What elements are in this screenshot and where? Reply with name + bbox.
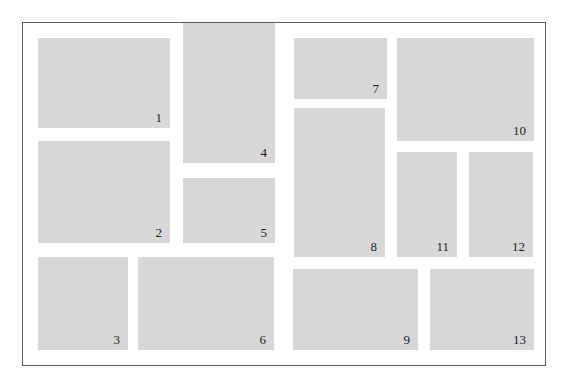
masonry-block-7: 7 [294, 38, 387, 99]
masonry-block-1: 1 [38, 38, 170, 128]
block-number-label: 10 [513, 124, 526, 137]
masonry-block-10: 10 [397, 38, 534, 141]
masonry-block-5: 5 [183, 178, 275, 243]
masonry-block-2: 2 [38, 141, 170, 243]
masonry-block-9: 9 [293, 269, 418, 350]
masonry-block-11: 11 [397, 152, 457, 257]
block-number-label: 9 [404, 333, 411, 346]
masonry-block-13: 13 [430, 269, 534, 350]
block-number-label: 1 [156, 111, 163, 124]
block-number-label: 4 [261, 146, 268, 159]
masonry-block-6: 6 [138, 257, 274, 350]
block-number-label: 5 [261, 226, 268, 239]
masonry-block-3: 3 [38, 257, 128, 350]
masonry-block-12: 12 [469, 152, 533, 257]
block-number-label: 3 [114, 333, 121, 346]
block-number-label: 11 [436, 240, 449, 253]
block-number-label: 6 [260, 333, 267, 346]
figure-frame: 1 2 3 4 5 6 7 8 9 10 11 12 13 [22, 22, 546, 366]
block-number-label: 8 [371, 240, 378, 253]
block-number-label: 12 [512, 240, 525, 253]
masonry-block-4: 4 [183, 23, 275, 163]
masonry-block-8: 8 [294, 108, 385, 257]
block-number-label: 2 [156, 226, 163, 239]
block-number-label: 13 [513, 333, 526, 346]
block-number-label: 7 [373, 82, 380, 95]
